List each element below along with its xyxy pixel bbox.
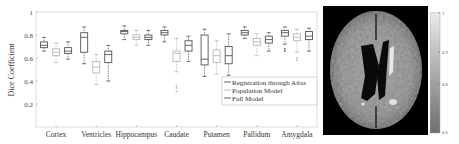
box-iqr xyxy=(305,32,312,40)
box-ventricles-2 xyxy=(105,45,112,81)
box-iqr xyxy=(201,35,208,65)
box-hippocampus-1 xyxy=(133,30,140,45)
y-tick-label: 0.4 xyxy=(24,78,33,86)
y-tick-label: 1 xyxy=(30,9,34,17)
box-caudate-0 xyxy=(161,27,168,42)
box-ventricles-0 xyxy=(81,27,88,64)
box-iqr xyxy=(281,30,288,36)
colorbar-tick-label: 0.8 xyxy=(442,82,448,87)
box-caudate-2 xyxy=(185,36,192,61)
outlier-point xyxy=(176,87,178,89)
box-putamen-2 xyxy=(225,34,232,75)
y-tick-label: 0.6 xyxy=(24,55,33,63)
outlier-point xyxy=(176,85,178,87)
bright-lesion-2 xyxy=(389,99,397,105)
x-tick-label: Putamen xyxy=(204,130,230,139)
box-iqr xyxy=(185,41,192,51)
legend-label: Population Model xyxy=(232,87,282,95)
brain-mri-image xyxy=(323,6,428,135)
outlier-point xyxy=(176,90,178,92)
box-hippocampus-2 xyxy=(145,30,152,45)
box-ventricles-1 xyxy=(93,55,100,85)
x-tick-label: Caudate xyxy=(164,130,189,139)
y-tick-label: 0.8 xyxy=(24,32,33,40)
box-cortex-1 xyxy=(53,43,60,63)
x-tick-label: Amygdala xyxy=(281,130,313,139)
box-iqr xyxy=(121,30,128,33)
x-tick-label: Hippocampus xyxy=(116,130,158,139)
box-cortex-0 xyxy=(41,37,48,51)
colorbar-tick-label: 1 xyxy=(442,12,444,16)
box-putamen-1 xyxy=(213,41,220,74)
box-iqr xyxy=(213,50,220,63)
colorbar-tick-label: 0.6 xyxy=(442,130,448,135)
boxplot-chart: 0.20.40.60.81 CortexVentriclesHippocampu… xyxy=(0,0,320,144)
box-amygdala-1 xyxy=(293,29,300,61)
y-tick-label: 0.2 xyxy=(24,101,33,109)
legend: Registration through AtlasPopulation Mod… xyxy=(222,77,317,105)
box-iqr xyxy=(225,47,232,64)
box-cortex-2 xyxy=(65,42,72,59)
bright-lesion-3 xyxy=(361,103,365,106)
box-iqr xyxy=(81,33,88,53)
outlier-point xyxy=(284,50,286,52)
box-hippocampus-0 xyxy=(121,26,128,40)
box-pallidum-1 xyxy=(253,34,260,56)
box-iqr xyxy=(65,48,72,54)
box-iqr xyxy=(105,51,112,63)
legend-label: Registration through Atlas xyxy=(232,79,306,87)
box-iqr xyxy=(173,51,180,61)
colorbar-tick-label: 0.9 xyxy=(442,50,448,55)
box-iqr xyxy=(41,42,48,48)
brain-mri-drawing xyxy=(323,6,428,135)
x-tick-label: Ventricles xyxy=(81,130,111,139)
y-axis-label: Dice Coefficient xyxy=(7,43,16,97)
x-tick-label: Cortex xyxy=(46,130,67,139)
box-pallidum-0 xyxy=(241,27,248,39)
x-tick-label: Pallidum xyxy=(243,130,270,139)
box-amygdala-0 xyxy=(281,27,288,52)
outlier-point xyxy=(284,48,286,50)
box-amygdala-2 xyxy=(305,28,312,51)
outlier-point xyxy=(296,59,298,61)
legend-label: Full Model xyxy=(232,95,263,103)
box-caudate-1 xyxy=(173,38,180,92)
colorbar: 10.90.80.6 xyxy=(430,12,459,136)
box-putamen-0 xyxy=(201,29,208,76)
colorbar-gradient xyxy=(430,12,440,133)
outlier-point xyxy=(296,57,298,59)
box-pallidum-2 xyxy=(265,33,272,51)
